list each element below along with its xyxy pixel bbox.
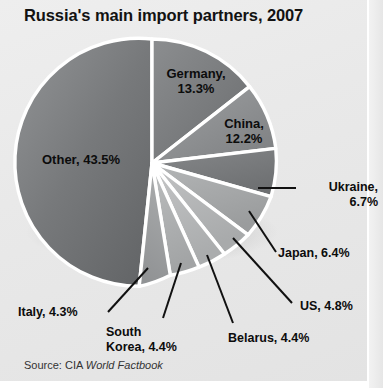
source-prefix: Source: CIA — [24, 359, 86, 371]
slice-label-ukraine-line2: 6.7% — [350, 195, 379, 209]
slice-label-italy: Italy, 4.3% — [18, 305, 78, 320]
slice-label-south-korea: South Korea, 4.4% — [106, 325, 202, 354]
slice-label-china: China, 12.2% — [206, 116, 282, 146]
infographic-page: Russia's main import partners, 2007 — [0, 0, 383, 388]
source-note: Source: CIA World Factbook — [24, 359, 163, 371]
slice-label-belarus: Belarus, 4.4% — [228, 331, 309, 346]
slice-label-china-line1: China, — [224, 116, 264, 131]
slice-label-ukraine-line1: Ukraine, — [329, 180, 378, 194]
slice-label-ukraine: Ukraine, 6.7% — [300, 180, 378, 209]
slice-label-other: Other, 43.5% — [42, 152, 120, 167]
slice-label-japan: Japan, 6.4% — [278, 246, 350, 261]
slice-label-south-korea-line1: South — [106, 325, 141, 339]
slice-label-china-line2: 12.2% — [226, 131, 263, 146]
slice-label-south-korea-line2: Korea, 4.4% — [106, 340, 177, 354]
slice-label-us: US, 4.8% — [300, 299, 353, 314]
slice-label-germany-line2: 13.3% — [178, 81, 215, 96]
source-publication: World Factbook — [86, 359, 163, 371]
slice-label-germany-line1: Germany, — [166, 66, 225, 81]
leader-belarus — [207, 255, 233, 323]
slice-label-germany: Germany, 13.3% — [152, 66, 240, 96]
